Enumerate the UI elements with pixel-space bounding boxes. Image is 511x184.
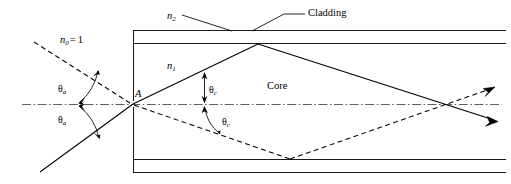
theta-a-upper-label: θa <box>58 84 66 96</box>
theta-c-lower-subscript: c <box>227 121 230 129</box>
cladding-leader-diagonal <box>252 14 284 31</box>
theta-c-angle-marks <box>205 74 220 133</box>
theta-a-upper-arrowhead <box>78 98 85 105</box>
leader-lines <box>182 14 305 31</box>
solid-core-ray-up <box>133 44 258 104</box>
theta-a-lower-arrowhead <box>78 104 85 111</box>
n0-value: 1 <box>77 34 84 45</box>
n0-index-label: n0=1 <box>60 35 84 47</box>
n0-equals: = <box>69 34 77 45</box>
core-label: Core <box>267 81 287 92</box>
dashed-ray-exit-arrowhead <box>483 87 495 96</box>
theta-c-upper-label: θc <box>209 85 217 97</box>
dashed-ray-path <box>34 42 490 159</box>
point-a-label: A <box>135 89 141 100</box>
cladding-label: Cladding <box>308 8 347 19</box>
dashed-core-ray-up <box>290 89 490 159</box>
theta-a-lower-arc-end-arrowhead <box>93 133 100 139</box>
n2-index-label: n2 <box>167 11 176 23</box>
theta-a-upper-arc-end-arrowhead <box>93 70 100 77</box>
theta-a-upper-arc <box>79 71 98 103</box>
n1-subscript: 1 <box>172 65 176 73</box>
theta-a-lower-label: θa <box>58 115 66 127</box>
fiber-diagram-svg <box>0 0 511 184</box>
fiber-structure <box>133 31 506 173</box>
solid-ray-path <box>40 44 494 172</box>
n2-leader-line <box>182 15 232 31</box>
theta-c-lower-arrowhead <box>202 106 208 113</box>
dashed-core-ray-down <box>134 105 290 159</box>
theta-a-lower-arc <box>79 106 99 138</box>
theta-a-upper-subscript: a <box>63 88 67 96</box>
theta-c-upper-subscript: c <box>214 89 217 97</box>
dashed-incident-ray <box>34 42 130 103</box>
optical-fiber-figure: n0=1 n2 Cladding n1 Core A θa θa θc θc <box>0 0 511 184</box>
theta-c-lower-label: θc <box>222 117 230 129</box>
solid-core-ray-down <box>258 44 494 120</box>
n2-subscript: 2 <box>172 15 176 23</box>
theta-a-lower-subscript: a <box>63 119 67 127</box>
solid-incident-ray <box>40 104 133 172</box>
n1-index-label: n1 <box>167 61 176 73</box>
